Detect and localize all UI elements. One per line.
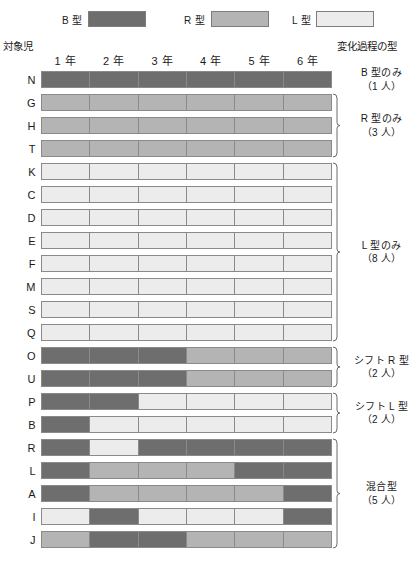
- cell-K-y1-L: [41, 163, 89, 180]
- cell-K-y3-L: [138, 163, 186, 180]
- row-label-F: F: [0, 258, 36, 270]
- cell-I-y4-L: [186, 508, 234, 525]
- cell-Q-y4-L: [186, 324, 234, 341]
- cell-J-y2-B: [89, 531, 137, 548]
- row-bar-A: [41, 485, 332, 502]
- brace-icon: [332, 160, 341, 344]
- cell-A-y1-B: [41, 485, 89, 502]
- cell-K-y5-L: [234, 163, 282, 180]
- cell-U-y1-B: [41, 370, 89, 387]
- legend-label-b: B 型: [62, 12, 83, 27]
- cell-U-y3-B: [138, 370, 186, 387]
- cell-B-y5-L: [234, 416, 282, 433]
- cell-I-y5-L: [234, 508, 282, 525]
- year-tick-3: 3 年: [138, 52, 187, 68]
- legend-swatch-l: [316, 11, 374, 27]
- group-name: シフト R 型: [344, 354, 419, 368]
- brace-icon: [332, 91, 341, 160]
- row-bar-T: [41, 140, 332, 157]
- cell-T-y5-R: [234, 140, 282, 157]
- group-name: L 型のみ: [344, 239, 419, 253]
- cell-U-y5-R: [234, 370, 282, 387]
- group-4: シフト R 型（2 人）: [332, 344, 419, 390]
- row-label-U: U: [0, 373, 36, 385]
- brace-icon: [332, 68, 341, 91]
- cell-I-y2-B: [89, 508, 137, 525]
- cell-O-y5-R: [234, 347, 282, 364]
- group-name: 混合型: [344, 480, 419, 494]
- cell-P-y2-B: [89, 393, 137, 410]
- cell-O-y3-B: [138, 347, 186, 364]
- year-tick-2: 2 年: [90, 52, 139, 68]
- cell-M-y1-L: [41, 278, 89, 295]
- cell-I-y1-L: [41, 508, 89, 525]
- cell-C-y5-L: [234, 186, 282, 203]
- cell-S-y1-L: [41, 301, 89, 318]
- cell-R-y6-B: [283, 439, 332, 456]
- cell-M-y5-L: [234, 278, 282, 295]
- cell-C-y1-L: [41, 186, 89, 203]
- cell-L-y4-R: [186, 462, 234, 479]
- process-type-column-header: 変化過程の型: [337, 38, 397, 53]
- cell-B-y3-L: [138, 416, 186, 433]
- cell-G-y3-R: [138, 94, 186, 111]
- cell-R-y2-L: [89, 439, 137, 456]
- cell-E-y2-L: [89, 232, 137, 249]
- cell-B-y2-L: [89, 416, 137, 433]
- cell-J-y5-R: [234, 531, 282, 548]
- cell-G-y6-R: [283, 94, 332, 111]
- cell-A-y6-B: [283, 485, 332, 502]
- group-6: 混合型（5 人）: [332, 436, 419, 551]
- cell-Q-y2-L: [89, 324, 137, 341]
- cell-L-y6-B: [283, 462, 332, 479]
- cell-N-y1-B: [41, 71, 89, 88]
- cell-H-y3-R: [138, 117, 186, 134]
- cell-R-y1-B: [41, 439, 89, 456]
- cell-D-y6-L: [283, 209, 332, 226]
- brace-icon: [332, 436, 341, 551]
- group-text: R 型のみ（3 人）: [341, 112, 419, 139]
- cell-G-y2-R: [89, 94, 137, 111]
- cell-G-y4-R: [186, 94, 234, 111]
- cell-P-y4-L: [186, 393, 234, 410]
- cell-D-y2-L: [89, 209, 137, 226]
- row-label-P: P: [0, 396, 36, 408]
- group-text: B 型のみ（1 人）: [341, 66, 419, 93]
- cell-H-y4-R: [186, 117, 234, 134]
- row-bar-I: [41, 508, 332, 525]
- row-label-K: K: [0, 166, 36, 178]
- group-name: B 型のみ: [344, 66, 419, 80]
- cell-E-y3-L: [138, 232, 186, 249]
- row-label-E: E: [0, 235, 36, 247]
- cell-K-y4-L: [186, 163, 234, 180]
- row-bar-O: [41, 347, 332, 364]
- cell-A-y2-R: [89, 485, 137, 502]
- cell-E-y4-L: [186, 232, 234, 249]
- cell-P-y6-L: [283, 393, 332, 410]
- group-3: L 型のみ（8 人）: [332, 160, 419, 344]
- row-label-Q: Q: [0, 327, 36, 339]
- cell-E-y6-L: [283, 232, 332, 249]
- cell-J-y6-R: [283, 531, 332, 548]
- cell-J-y3-B: [138, 531, 186, 548]
- cell-Q-y6-L: [283, 324, 332, 341]
- cell-D-y1-L: [41, 209, 89, 226]
- cell-I-y3-L: [138, 508, 186, 525]
- row-bar-K: [41, 163, 332, 180]
- row-label-C: C: [0, 189, 36, 201]
- cell-U-y6-R: [283, 370, 332, 387]
- year-tick-4: 4 年: [187, 52, 236, 68]
- legend: B 型 R 型 L 型: [0, 6, 419, 32]
- row-label-T: T: [0, 143, 36, 155]
- cell-O-y1-B: [41, 347, 89, 364]
- cell-F-y4-L: [186, 255, 234, 272]
- cell-S-y6-L: [283, 301, 332, 318]
- row-bar-Q: [41, 324, 332, 341]
- group-count: （5 人）: [344, 494, 419, 508]
- row-bar-N: [41, 71, 332, 88]
- cell-O-y2-B: [89, 347, 137, 364]
- row-label-N: N: [0, 74, 36, 86]
- year-tick-1: 1 年: [41, 52, 90, 68]
- row-bar-G: [41, 94, 332, 111]
- cell-U-y2-B: [89, 370, 137, 387]
